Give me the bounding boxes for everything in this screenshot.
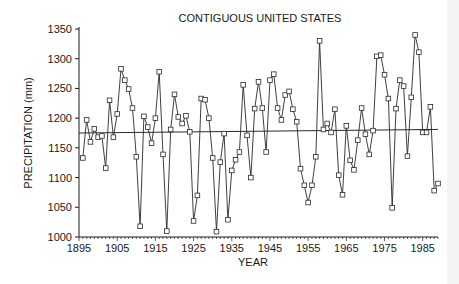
- data-point-marker: [256, 80, 261, 85]
- data-point-marker: [348, 158, 353, 163]
- data-point-marker: [271, 72, 276, 77]
- data-point-marker: [313, 154, 318, 159]
- data-point-marker: [161, 152, 166, 157]
- data-point-marker: [241, 83, 246, 88]
- data-point-marker: [222, 131, 227, 136]
- data-point-marker: [382, 72, 387, 77]
- data-point-marker: [287, 89, 292, 94]
- data-point-marker: [123, 78, 128, 83]
- data-point-marker: [237, 150, 242, 155]
- data-point-marker: [191, 219, 196, 224]
- data-point-marker: [187, 130, 192, 135]
- data-point-marker: [344, 124, 349, 129]
- data-point-marker: [214, 229, 219, 234]
- data-point-marker: [321, 127, 326, 132]
- data-point-marker: [432, 188, 437, 193]
- y-axis-label: PRECIPITATION (mm): [22, 77, 34, 188]
- data-point-marker: [413, 33, 418, 38]
- data-point-marker: [184, 113, 189, 118]
- data-point-marker: [119, 67, 124, 72]
- y-tick-label: 1200: [48, 112, 72, 124]
- data-point-marker: [340, 193, 345, 198]
- x-tick-label: 1975: [372, 242, 396, 254]
- data-point-marker: [245, 133, 250, 138]
- data-point-marker: [386, 96, 391, 101]
- data-point-marker: [168, 127, 173, 132]
- data-point-marker: [336, 173, 341, 178]
- plot-area: [79, 33, 440, 234]
- x-tick-label: 1985: [410, 242, 434, 254]
- data-point-marker: [390, 206, 395, 211]
- data-point-marker: [126, 87, 131, 92]
- data-point-marker: [405, 154, 410, 159]
- data-point-marker: [298, 166, 303, 171]
- data-point-marker: [107, 98, 112, 103]
- x-tick-label: 1945: [258, 242, 282, 254]
- data-point-marker: [275, 106, 280, 111]
- data-point-marker: [394, 106, 399, 111]
- y-tick-label: 1350: [48, 23, 72, 35]
- x-tick-label: 1925: [181, 242, 205, 254]
- data-point-marker: [279, 118, 284, 123]
- x-axis-label: YEAR: [238, 256, 268, 268]
- data-point-marker: [355, 138, 360, 143]
- x-tick-label: 1895: [67, 242, 91, 254]
- trend-line: [79, 129, 438, 133]
- data-point-marker: [149, 141, 154, 146]
- data-point-marker: [81, 156, 86, 161]
- data-point-marker: [436, 181, 441, 186]
- x-tick-label: 1965: [334, 242, 358, 254]
- data-point-marker: [207, 116, 212, 121]
- data-point-marker: [115, 112, 120, 117]
- y-tick-label: 1250: [48, 82, 72, 94]
- y-tick-label: 1150: [48, 142, 72, 154]
- x-tick-label: 1905: [105, 242, 129, 254]
- data-point-marker: [92, 127, 97, 132]
- data-point-marker: [417, 50, 422, 55]
- data-point-marker: [233, 157, 238, 162]
- data-point-marker: [157, 69, 162, 74]
- data-point-marker: [172, 92, 177, 97]
- y-tick-label: 1100: [48, 172, 72, 184]
- data-point-marker: [249, 175, 254, 180]
- data-point-marker: [165, 229, 170, 234]
- data-point-marker: [84, 118, 89, 123]
- data-point-marker: [291, 107, 296, 112]
- data-point-marker: [218, 160, 223, 165]
- x-tick-label: 1955: [296, 242, 320, 254]
- data-point-marker: [88, 140, 93, 145]
- data-point-marker: [310, 183, 315, 188]
- data-point-marker: [252, 106, 257, 111]
- data-point-marker: [329, 130, 334, 135]
- data-point-marker: [352, 168, 357, 173]
- data-point-marker: [203, 97, 208, 102]
- x-tick-label: 1915: [143, 242, 167, 254]
- precipitation-chart: CONTIGUOUS UNITED STATES 100010501100115…: [0, 0, 459, 284]
- data-point-marker: [130, 106, 135, 111]
- data-point-marker: [103, 166, 108, 171]
- y-tick-label: 1300: [48, 53, 72, 65]
- page-edge: [447, 0, 459, 284]
- precipitation-line: [83, 35, 438, 232]
- x-tick-label: 1935: [220, 242, 244, 254]
- data-point-marker: [134, 154, 139, 159]
- data-point-marker: [302, 183, 307, 188]
- data-point-marker: [142, 114, 147, 119]
- chart-title: CONTIGUOUS UNITED STATES: [179, 12, 342, 24]
- data-point-marker: [294, 119, 299, 124]
- data-point-marker: [153, 116, 158, 121]
- data-point-marker: [138, 224, 143, 229]
- data-point-marker: [401, 84, 406, 89]
- data-point-marker: [367, 152, 372, 157]
- data-point-marker: [306, 200, 311, 205]
- data-point-marker: [317, 39, 322, 44]
- data-point-marker: [325, 121, 330, 126]
- data-point-marker: [226, 217, 231, 222]
- data-point-marker: [145, 125, 150, 130]
- data-point-marker: [333, 107, 338, 112]
- data-point-marker: [359, 106, 364, 111]
- data-point-marker: [195, 193, 200, 198]
- data-point-marker: [264, 150, 269, 155]
- y-tick-label: 1050: [48, 201, 72, 213]
- data-point-marker: [363, 132, 368, 137]
